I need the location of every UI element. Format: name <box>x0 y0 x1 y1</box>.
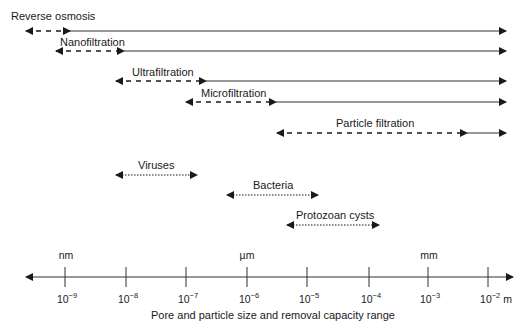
label-protozoan-cysts: Protozoan cysts <box>296 209 374 221</box>
label-nanofiltration: Nanofiltration <box>60 36 125 48</box>
tick-label: 10−9 <box>57 293 77 305</box>
tick-label: 10−6 <box>239 293 259 305</box>
label-particle-filtration: Particle filtration <box>336 117 414 129</box>
diagram-canvas <box>0 0 526 331</box>
tick-label: 10−8 <box>118 293 138 305</box>
tick-label: 10−2 m <box>480 293 512 305</box>
unit-mm: mm <box>420 249 438 261</box>
label-reverse-osmosis: Reverse osmosis <box>11 10 95 22</box>
tick-label: 10−4 <box>361 293 381 305</box>
axis-label: Pore and particle size and removal capac… <box>151 309 395 321</box>
label-ultrafiltration: Ultrafiltration <box>132 66 194 78</box>
tick-label: 10−3 <box>420 293 440 305</box>
unit-nm: nm <box>59 249 74 261</box>
tick-label: 10−5 <box>299 293 319 305</box>
unit-um: µm <box>240 249 255 261</box>
label-bacteria: Bacteria <box>253 179 293 191</box>
size-axis <box>26 267 513 287</box>
axis-unit-m: m <box>503 293 512 305</box>
label-viruses: Viruses <box>138 159 174 171</box>
label-microfiltration: Microfiltration <box>201 87 266 99</box>
tick-label: 10−7 <box>178 293 198 305</box>
